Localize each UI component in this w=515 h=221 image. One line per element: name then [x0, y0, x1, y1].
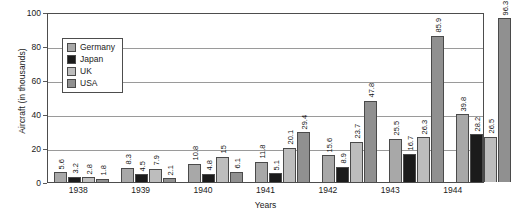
bar-usa[interactable]: [230, 172, 243, 182]
bar-value-label: 96.3: [502, 1, 510, 16]
bar-usa[interactable]: [431, 36, 444, 182]
bar-wrapper: 29.4: [297, 14, 310, 182]
y-tick-label: 20: [32, 145, 41, 154]
x-tick-label: 1938: [47, 185, 109, 195]
bar-germany[interactable]: [322, 155, 335, 182]
x-axis-title: Years: [47, 200, 484, 210]
bar-germany[interactable]: [255, 162, 268, 182]
bar-germany[interactable]: [389, 139, 402, 182]
bar-value-label: 4.5: [139, 161, 147, 171]
legend-item-germany[interactable]: Germany: [67, 42, 115, 53]
bar-japan[interactable]: [336, 167, 349, 182]
bar-value-label: 8.9: [340, 153, 348, 163]
bar-wrapper: 4.5: [135, 14, 148, 182]
bar-usa[interactable]: [96, 179, 109, 182]
bar-wrapper: 96.3: [498, 14, 511, 182]
bar-uk[interactable]: [484, 137, 497, 182]
bar-uk[interactable]: [82, 177, 95, 182]
legend-label: UK: [80, 67, 92, 76]
bar-value-label: 2.1: [167, 165, 175, 175]
legend-label: Japan: [80, 55, 103, 64]
x-tick-label: 1939: [109, 185, 171, 195]
bar-value-label: 39.8: [460, 97, 468, 112]
bar-value-label: 28.2: [474, 116, 482, 131]
bar-wrapper: 11.8: [255, 14, 268, 182]
bar-value-label: 8.3: [125, 154, 133, 164]
bar-wrapper: 26.5: [484, 14, 497, 182]
bar-wrapper: 23.7: [350, 14, 363, 182]
x-tick-label: 1941: [234, 185, 296, 195]
bar-germany[interactable]: [54, 172, 67, 182]
bar-group: 25.516.726.385.9: [383, 14, 450, 182]
bar-value-label: 1.8: [100, 166, 108, 176]
bar-value-label: 3.2: [72, 163, 80, 173]
y-tick-label: 80: [32, 43, 41, 52]
y-axis-ticks: 020406080100: [0, 0, 45, 221]
bar-japan[interactable]: [68, 177, 81, 182]
legend-item-uk[interactable]: UK: [67, 66, 115, 77]
x-axis-tick-labels: 1938193919401941194219431944: [47, 185, 484, 195]
bar-wrapper: 28.2: [470, 14, 483, 182]
bar-germany[interactable]: [121, 168, 134, 182]
bar-wrapper: 10.8: [188, 14, 201, 182]
y-tick-label: 100: [27, 9, 41, 18]
bar-uk[interactable]: [350, 142, 363, 182]
bar-wrapper: 47.8: [364, 14, 377, 182]
x-tick-label: 1942: [297, 185, 359, 195]
legend-swatch-icon: [67, 79, 76, 88]
bar-japan[interactable]: [269, 173, 282, 182]
bar-japan[interactable]: [403, 154, 416, 182]
bar-value-label: 5.6: [58, 159, 66, 169]
bar-germany[interactable]: [456, 114, 469, 182]
bar-wrapper: 4.8: [202, 14, 215, 182]
bar-value-label: 20.1: [287, 130, 295, 145]
bar-wrapper: 15.6: [322, 14, 335, 182]
legend-swatch-icon: [67, 67, 76, 76]
x-tick-label: 1944: [422, 185, 484, 195]
legend-label: Germany: [80, 43, 115, 52]
bar-group: 39.828.226.596.3: [450, 14, 515, 182]
bar-group: 15.68.923.747.8: [316, 14, 383, 182]
bar-wrapper: 85.9: [431, 14, 444, 182]
bar-value-label: 26.3: [421, 120, 429, 135]
bar-wrapper: 26.3: [417, 14, 430, 182]
bar-value-label: 2.8: [86, 164, 94, 174]
bar-japan[interactable]: [470, 134, 483, 182]
legend-item-japan[interactable]: Japan: [67, 54, 115, 65]
bar-value-label: 15: [220, 145, 228, 153]
bar-wrapper: 5.1: [269, 14, 282, 182]
bar-japan[interactable]: [202, 174, 215, 182]
bar-japan[interactable]: [135, 174, 148, 182]
bar-usa[interactable]: [297, 132, 310, 182]
bar-value-label: 16.7: [407, 136, 415, 151]
y-tick-label: 60: [32, 77, 41, 86]
legend-swatch-icon: [67, 55, 76, 64]
legend-label: USA: [80, 79, 97, 88]
y-tick-label: 0: [36, 179, 41, 188]
bar-value-label: 26.5: [488, 119, 496, 134]
bar-value-label: 6.1: [234, 158, 242, 168]
bar-group: 11.85.120.129.4: [249, 14, 316, 182]
bar-uk[interactable]: [149, 169, 162, 182]
bar-value-label: 10.8: [192, 146, 200, 161]
bar-value-label: 23.7: [354, 124, 362, 139]
bar-value-label: 5.1: [273, 160, 281, 170]
bar-wrapper: 39.8: [456, 14, 469, 182]
bar-usa[interactable]: [364, 101, 377, 182]
bar-germany[interactable]: [188, 164, 201, 182]
bar-wrapper: 8.9: [336, 14, 349, 182]
bar-wrapper: 16.7: [403, 14, 416, 182]
bar-value-label: 25.5: [393, 121, 401, 136]
bar-value-label: 4.8: [206, 160, 214, 170]
bar-wrapper: 15: [216, 14, 229, 182]
bar-value-label: 7.9: [153, 155, 161, 165]
legend-item-usa[interactable]: USA: [67, 78, 115, 89]
bar-usa[interactable]: [498, 18, 511, 182]
bar-uk[interactable]: [417, 137, 430, 182]
bar-uk[interactable]: [283, 148, 296, 182]
legend-swatch-icon: [67, 43, 76, 52]
y-tick-mark: [43, 183, 47, 184]
bar-usa[interactable]: [163, 178, 176, 182]
bar-uk[interactable]: [216, 157, 229, 183]
